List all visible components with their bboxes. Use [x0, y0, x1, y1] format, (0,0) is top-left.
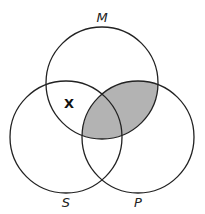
- x-mark: X: [64, 96, 74, 111]
- label-p: P: [134, 195, 142, 210]
- label-m: M: [96, 10, 107, 25]
- label-s: S: [62, 195, 70, 210]
- venn-diagram: M S P X: [0, 0, 205, 214]
